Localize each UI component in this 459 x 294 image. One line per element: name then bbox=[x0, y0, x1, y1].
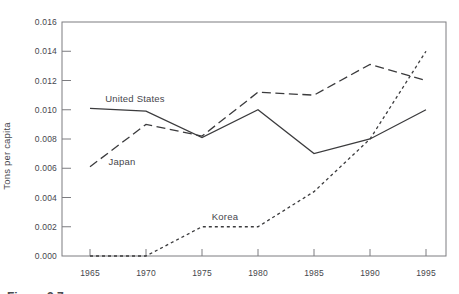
x-tick-label: 1995 bbox=[416, 268, 436, 278]
y-tick-label: 0.006 bbox=[35, 163, 57, 173]
chart-figure: 0.0000.0020.0040.0060.0080.0100.0120.014… bbox=[0, 0, 459, 294]
x-tick-label: 1985 bbox=[304, 268, 324, 278]
x-tick-label: 1965 bbox=[80, 268, 100, 278]
series-line-korea bbox=[90, 51, 426, 256]
y-tick-label: 0.000 bbox=[35, 251, 57, 261]
x-tick-label: 1975 bbox=[192, 268, 212, 278]
y-tick-label: 0.002 bbox=[35, 222, 57, 232]
figure-caption-label: Figure 3.7 bbox=[7, 290, 64, 294]
plot-frame bbox=[62, 22, 446, 256]
series-label-japan: Japan bbox=[109, 156, 136, 167]
series-line-united-states bbox=[90, 108, 426, 153]
x-tick-label: 1990 bbox=[360, 268, 380, 278]
y-tick-label: 0.016 bbox=[35, 17, 57, 27]
y-tick-label: 0.014 bbox=[35, 46, 57, 56]
series-line-japan bbox=[90, 64, 426, 166]
series-label-united-states: United States bbox=[105, 93, 165, 104]
y-tick-label: 0.008 bbox=[35, 134, 57, 144]
y-axis-title: Tons per capita bbox=[1, 122, 12, 190]
chart-canvas: 0.0000.0020.0040.0060.0080.0100.0120.014… bbox=[0, 0, 459, 294]
x-tick-label: 1970 bbox=[136, 268, 156, 278]
y-tick-label: 0.004 bbox=[35, 193, 57, 203]
figure-caption: Figure 3.7 bbox=[7, 287, 447, 294]
figure-page: 0.0000.0020.0040.0060.0080.0100.0120.014… bbox=[0, 0, 459, 294]
y-tick-label: 0.012 bbox=[35, 76, 57, 86]
x-tick-label: 1980 bbox=[248, 268, 268, 278]
series-label-korea: Korea bbox=[212, 211, 239, 222]
y-tick-label: 0.010 bbox=[35, 105, 57, 115]
